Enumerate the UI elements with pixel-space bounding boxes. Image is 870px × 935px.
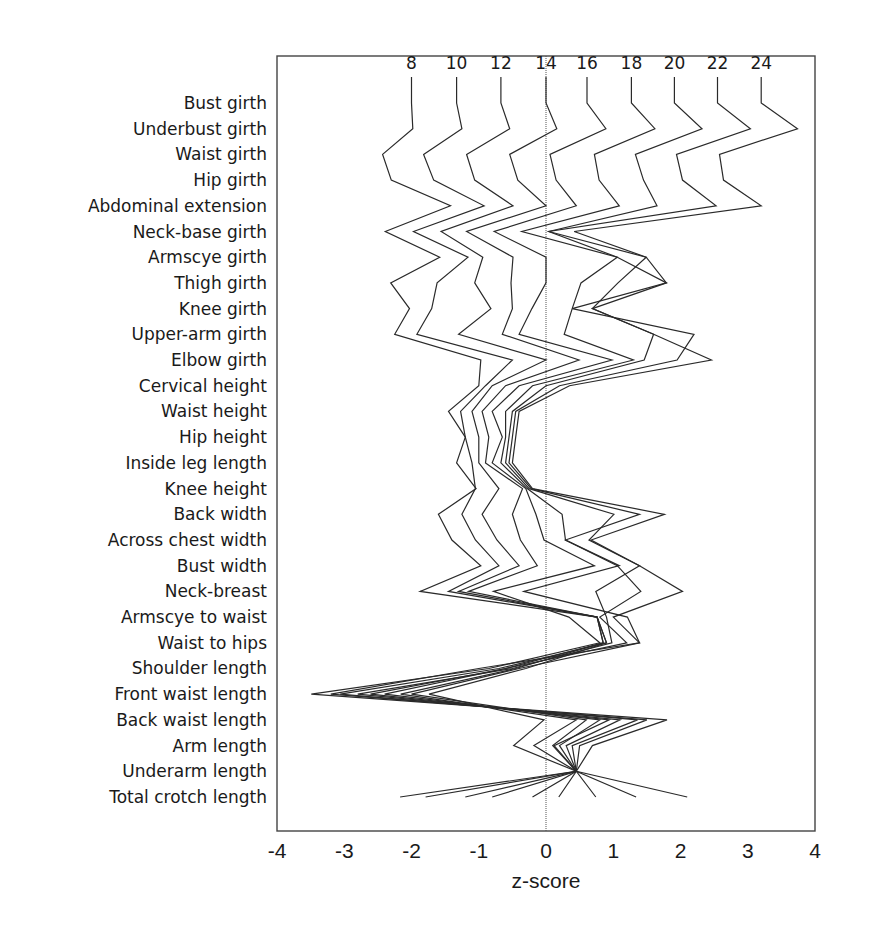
measurement-label: Armscye girth <box>148 247 267 267</box>
x-tick-label: -2 <box>402 839 421 862</box>
measurement-label: Underarm length <box>122 761 267 781</box>
measurement-label: Hip height <box>179 427 267 447</box>
measurement-labels: Bust girthUnderbust girthWaist girthHip … <box>88 93 267 807</box>
z-score-profile-chart: Bust girthUnderbust girthWaist girthHip … <box>0 0 870 935</box>
measurement-label: Bust width <box>177 556 267 576</box>
measurement-label: Back width <box>173 504 267 524</box>
measurement-label: Across chest width <box>108 530 267 550</box>
x-axis-tick-labels: -4-3-2-101234 <box>268 839 822 862</box>
series-line-size-8 <box>383 77 607 797</box>
measurement-label: Underbust girth <box>133 119 267 139</box>
measurement-label: Knee girth <box>179 299 267 319</box>
size-label: 24 <box>750 53 772 73</box>
x-tick-label: 4 <box>809 839 821 862</box>
measurement-label: Back waist length <box>116 710 267 730</box>
measurement-label: Arm length <box>173 736 267 756</box>
measurement-label: Waist to hips <box>158 633 268 653</box>
measurement-label: Abdominal extension <box>88 196 267 216</box>
x-tick-label: 2 <box>675 839 687 862</box>
size-labels: 81012141618202224 <box>406 53 772 73</box>
measurement-label: Waist height <box>161 401 267 421</box>
measurement-label: Inside leg length <box>125 453 267 473</box>
measurement-label: Front waist length <box>114 684 267 704</box>
size-label: 22 <box>707 53 729 73</box>
measurement-label: Armscye to waist <box>121 607 267 627</box>
series-line-size-22 <box>385 77 751 797</box>
measurement-label: Waist girth <box>175 144 267 164</box>
x-tick-label: 3 <box>742 839 754 862</box>
x-axis-title: z-score <box>512 869 581 892</box>
measurement-label: Total crotch length <box>108 787 267 807</box>
measurement-label: Cervical height <box>139 376 268 396</box>
measurement-label: Bust girth <box>184 93 267 113</box>
series-line-size-14 <box>340 77 637 797</box>
measurement-label: Elbow girth <box>171 350 267 370</box>
size-label: 18 <box>621 53 643 73</box>
size-label: 8 <box>406 53 417 73</box>
size-series-lines <box>311 77 797 797</box>
measurement-label: Hip girth <box>193 170 267 190</box>
size-label: 10 <box>446 53 468 73</box>
measurement-label: Upper-arm girth <box>131 324 267 344</box>
measurement-label: Neck-base girth <box>133 222 267 242</box>
measurement-label: Knee height <box>165 479 268 499</box>
x-tick-label: -1 <box>469 839 488 862</box>
size-label: 20 <box>664 53 686 73</box>
size-label: 12 <box>490 53 512 73</box>
series-line-size-18 <box>331 77 655 797</box>
x-tick-label: -4 <box>268 839 287 862</box>
size-label: 16 <box>576 53 598 73</box>
x-tick-label: 0 <box>540 839 552 862</box>
x-tick-label: -3 <box>335 839 354 862</box>
measurement-label: Neck-breast <box>165 581 268 601</box>
measurement-label: Thigh girth <box>173 273 267 293</box>
x-tick-label: 1 <box>607 839 619 862</box>
size-label: 14 <box>535 53 557 73</box>
measurement-label: Shoulder length <box>132 658 267 678</box>
series-line-size-24 <box>412 77 798 797</box>
